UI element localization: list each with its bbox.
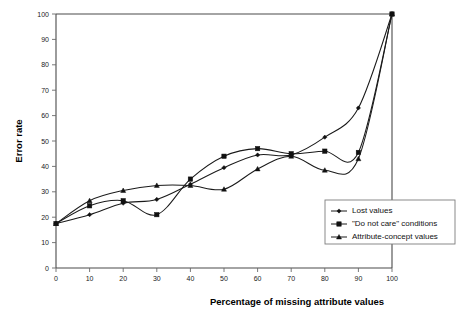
x-tick-label: 80: [321, 275, 329, 282]
y-axis-title: Error rate: [13, 119, 24, 162]
legend-label-2: "Do not care" conditions: [352, 219, 437, 228]
x-tick-label: 60: [254, 275, 262, 282]
line-chart: 0102030405060708090100 01020304050607080…: [0, 0, 468, 324]
y-tick-label: 60: [41, 112, 49, 119]
x-tick-label: 40: [187, 275, 195, 282]
x-tick-label: 20: [119, 275, 127, 282]
marker-square: [121, 198, 125, 202]
x-tick-label: 90: [355, 275, 363, 282]
x-tick-label: 70: [287, 275, 295, 282]
y-tick-label: 40: [41, 163, 49, 170]
y-tick-label: 90: [41, 36, 49, 43]
x-tick-label: 30: [153, 275, 161, 282]
x-tick-label: 50: [220, 275, 228, 282]
y-tick-label: 80: [41, 61, 49, 68]
marker-square: [255, 146, 259, 150]
x-tick-label: 100: [386, 275, 398, 282]
y-tick-label: 0: [45, 265, 49, 272]
marker-square: [323, 149, 327, 153]
marker-square: [337, 222, 341, 226]
legend-label-3: Attribute-concept values: [352, 232, 438, 241]
y-tick-label: 50: [41, 138, 49, 145]
y-tick-label: 100: [37, 11, 49, 18]
marker-square: [188, 177, 192, 181]
chart-figure: 0102030405060708090100 01020304050607080…: [0, 0, 468, 324]
y-tick-label: 10: [41, 239, 49, 246]
marker-square: [87, 204, 91, 208]
x-axis-title: Percentage of missing attribute values: [210, 296, 384, 307]
marker-square: [222, 154, 226, 158]
chart-legend[interactable]: Lost values"Do not care" conditionsAttri…: [325, 200, 455, 244]
legend-label-1: Lost values: [352, 206, 392, 215]
x-tick-label: 0: [54, 275, 58, 282]
marker-square: [155, 212, 159, 216]
y-tick-label: 30: [41, 188, 49, 195]
x-tick-label: 10: [86, 275, 94, 282]
y-tick-label: 20: [41, 214, 49, 221]
y-tick-label: 70: [41, 87, 49, 94]
